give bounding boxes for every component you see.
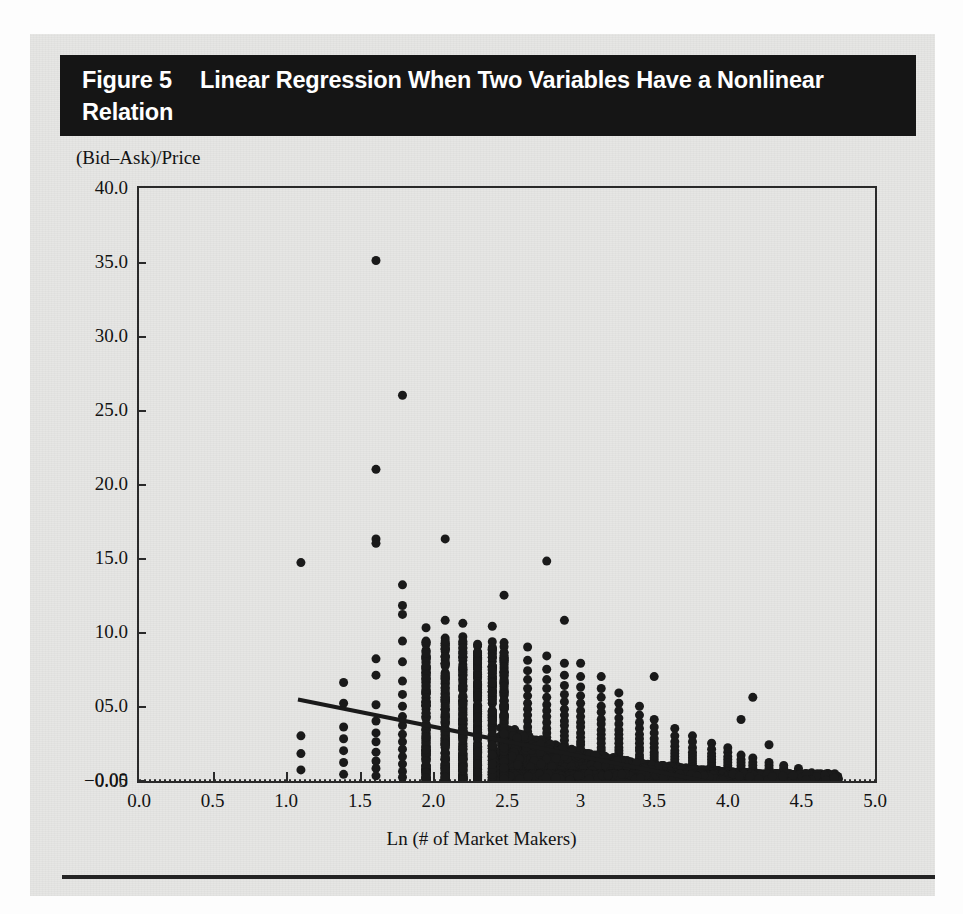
x-axis-title: Ln (# of Market Makers) (0, 828, 963, 850)
x-tick-label: 0.5 (201, 790, 225, 812)
x-tick-label: 4.0 (716, 790, 740, 812)
y-tick-label: 35.0 (95, 251, 128, 273)
x-tick-label: 3.5 (642, 790, 666, 812)
y-tick-label: −0.05 (84, 770, 128, 792)
plot-area (139, 188, 875, 781)
y-tick-label: 40.0 (95, 177, 128, 199)
x-tick-label: 3 (576, 790, 586, 812)
figure-number-label: Figure 5 (82, 64, 200, 96)
y-axis-title: (Bid–Ask)/Price (76, 147, 201, 169)
x-tick-label: 4.5 (790, 790, 814, 812)
x-tick-label: 2.5 (495, 790, 519, 812)
y-tick-label: 25.0 (95, 399, 128, 421)
figure-title-text: Figure 5Linear Regression When Two Varia… (82, 64, 902, 128)
figure-bottom-rule (62, 875, 935, 879)
scatter-points (296, 256, 842, 781)
y-tick-label: 30.0 (95, 325, 128, 347)
x-tick-label: 1.0 (274, 790, 298, 812)
scatter-plot-svg (139, 188, 875, 781)
figure-page: Figure 5Linear Regression When Two Varia… (0, 0, 963, 914)
x-tick-label: 1.5 (348, 790, 372, 812)
y-tick-label: 15.0 (95, 547, 128, 569)
y-tick-label: 20.0 (95, 473, 128, 495)
y-tick-label: 05.0 (95, 695, 128, 717)
y-tick-label-group: 40.035.030.025.020.015.010.005.00.00−0.0… (52, 186, 128, 783)
plot-frame (137, 186, 877, 783)
x-tick-label: 0.0 (127, 790, 151, 812)
y-tick-label: 10.0 (95, 621, 128, 643)
x-tick-label: 5.0 (863, 790, 887, 812)
x-tick-label: 2.0 (422, 790, 446, 812)
figure-title-bar: Figure 5Linear Regression When Two Varia… (60, 55, 916, 136)
